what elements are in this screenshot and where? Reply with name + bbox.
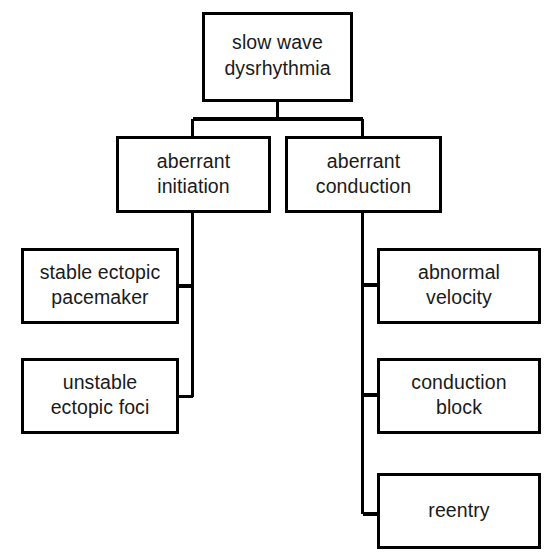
node-label-aberrant-conduction-line2: conduction bbox=[316, 175, 411, 197]
node-label-stable-ectopic-pacemaker-line1: stable ectopic bbox=[40, 261, 161, 283]
node-label-abnormal-velocity-line2: velocity bbox=[426, 286, 492, 308]
node-label-aberrant-initiation-line2: initiation bbox=[157, 175, 230, 197]
node-label-reentry-line1: reentry bbox=[428, 499, 490, 521]
node-aberrant-initiation[interactable]: aberrant initiation bbox=[118, 138, 270, 212]
node-label-aberrant-initiation-line1: aberrant bbox=[157, 150, 231, 172]
node-stable-ectopic-pacemaker[interactable]: stable ectopic pacemaker bbox=[23, 250, 178, 323]
node-aberrant-conduction[interactable]: aberrant conduction bbox=[287, 138, 441, 212]
node-label-conduction-block-line2: block bbox=[436, 396, 482, 418]
node-label-stable-ectopic-pacemaker-line2: pacemaker bbox=[51, 286, 149, 308]
node-conduction-block[interactable]: conduction block bbox=[379, 360, 540, 433]
node-label-slow-wave-dysrhythmia-line2: dysrhythmia bbox=[224, 57, 330, 79]
node-abnormal-velocity[interactable]: abnormal velocity bbox=[379, 250, 540, 323]
node-label-abnormal-velocity-line1: abnormal bbox=[418, 261, 500, 283]
node-label-aberrant-conduction-line1: aberrant bbox=[327, 150, 401, 172]
node-unstable-ectopic-foci[interactable]: unstable ectopic foci bbox=[23, 360, 178, 433]
node-slow-wave-dysrhythmia[interactable]: slow wave dysrhythmia bbox=[204, 14, 352, 101]
diagram-canvas: slow wave dysrhythmia aberrant initiatio… bbox=[0, 0, 555, 560]
slow-wave-dysrhythmia-tree: slow wave dysrhythmia aberrant initiatio… bbox=[0, 0, 555, 560]
node-label-conduction-block-line1: conduction bbox=[411, 371, 506, 393]
node-label-unstable-ectopic-foci-line2: ectopic foci bbox=[51, 396, 150, 418]
node-label-unstable-ectopic-foci-line1: unstable bbox=[63, 371, 138, 393]
node-reentry[interactable]: reentry bbox=[379, 475, 540, 548]
node-label-slow-wave-dysrhythmia-line1: slow wave bbox=[232, 31, 323, 53]
